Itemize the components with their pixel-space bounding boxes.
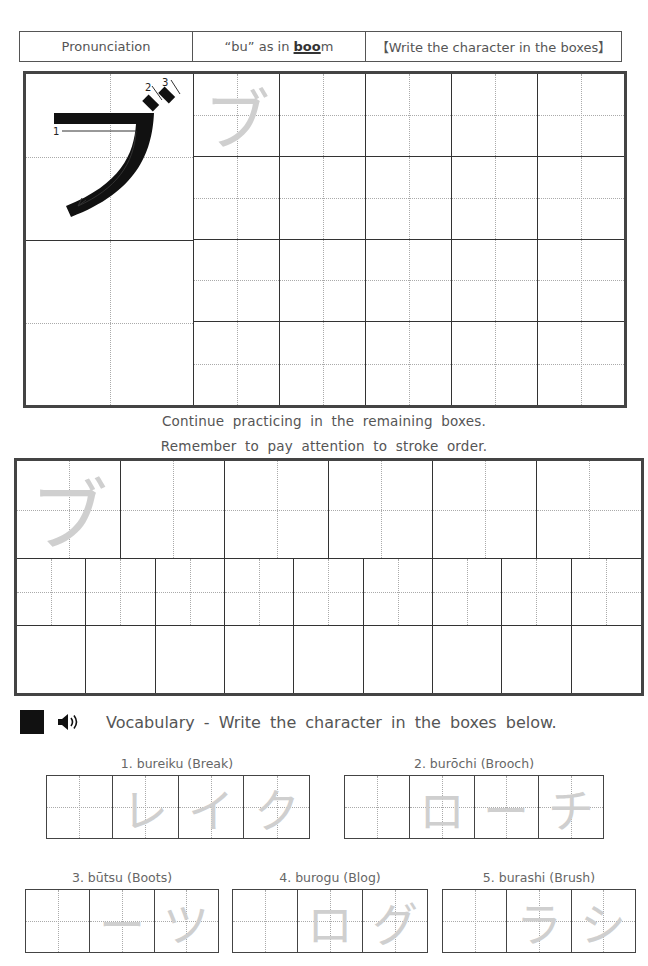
practice-cell[interactable]	[364, 626, 433, 693]
vocab-cell[interactable]: ク	[244, 776, 309, 838]
vocabulary-heading-text: Vocabulary - Write the character in the …	[106, 713, 557, 732]
practice-cell[interactable]: ブ	[194, 74, 280, 157]
trace-glyph: ロ	[298, 890, 362, 952]
practice-cell[interactable]	[17, 626, 86, 693]
practice-cell[interactable]	[502, 626, 571, 693]
practice-cell[interactable]	[366, 322, 452, 405]
instruction-line-1: Continue practicing in the remaining box…	[0, 413, 648, 429]
practice-cell[interactable]	[194, 157, 280, 240]
stroke-number-3: 3	[162, 77, 168, 88]
practice-cell[interactable]: ブ	[17, 461, 121, 559]
practice-cell[interactable]	[433, 559, 502, 626]
word-label-2: 2. burōchi (Brooch)	[344, 756, 604, 771]
practice-cell[interactable]	[194, 322, 280, 405]
vocab-cell[interactable]: ロ	[410, 776, 475, 838]
vocab-cell[interactable]	[47, 776, 113, 838]
vocab-cell[interactable]: ー	[90, 890, 154, 952]
vocab-cell[interactable]	[233, 890, 298, 952]
stroke-number-2: 2	[145, 82, 151, 93]
practice-cell[interactable]	[280, 240, 366, 323]
vocab-cell[interactable]	[345, 776, 410, 838]
trace-glyph: ー	[475, 776, 539, 838]
practice-cell[interactable]	[329, 461, 433, 559]
vocab-cell[interactable]: ロ	[298, 890, 363, 952]
vocab-cell[interactable]: レ	[113, 776, 179, 838]
practice-cell[interactable]	[225, 626, 294, 693]
vocab-cell[interactable]	[443, 890, 507, 952]
word-label-3: 3. būtsu (Boots)	[24, 870, 220, 885]
vocab-cell[interactable]: ー	[475, 776, 540, 838]
word-box-2: ローチ	[344, 775, 604, 839]
practice-cell[interactable]	[225, 461, 329, 559]
pronunciation-cell: Pronunciation	[20, 32, 193, 61]
practice-cell[interactable]	[225, 559, 294, 626]
trace-glyph: ブ	[194, 74, 279, 156]
word-box-5: ラシ	[442, 889, 636, 953]
word-label-5: 5. burashi (Brush)	[441, 870, 637, 885]
trace-glyph: チ	[539, 776, 603, 838]
practice-cell[interactable]	[280, 322, 366, 405]
trace-glyph: ロ	[410, 776, 474, 838]
practice-cell[interactable]	[433, 461, 537, 559]
pronunciation-label: Pronunciation	[62, 39, 151, 54]
practice-cells: ブ	[194, 74, 624, 405]
header-bar: Pronunciation “bu” as in boom 【Write the…	[19, 31, 622, 62]
vocab-cell[interactable]: ツ	[155, 890, 218, 952]
practice-cell[interactable]	[156, 626, 225, 693]
model-character-box: 1 2 3	[26, 74, 194, 241]
word-box-4: ログ	[232, 889, 428, 953]
practice-cell[interactable]	[502, 559, 571, 626]
practice-cell[interactable]	[452, 322, 538, 405]
practice-cell[interactable]	[121, 461, 225, 559]
practice-cell[interactable]	[452, 74, 538, 157]
word-label-1: 1. bureiku (Break)	[46, 756, 308, 771]
vocab-cell[interactable]: ラ	[507, 890, 571, 952]
trace-glyph: グ	[363, 890, 427, 952]
practice-cell[interactable]	[452, 157, 538, 240]
practice-cell[interactable]	[537, 461, 641, 559]
practice-cell[interactable]	[572, 626, 641, 693]
stroke-order-diagram: 1 2 3	[26, 74, 194, 241]
practice-cell[interactable]	[538, 322, 624, 405]
practice-cell[interactable]	[280, 74, 366, 157]
sound-highlight: boo	[294, 39, 321, 54]
vocab-cell[interactable]: イ	[179, 776, 245, 838]
vocab-cell[interactable]: シ	[572, 890, 635, 952]
practice-cell[interactable]	[156, 559, 225, 626]
speaker-icon[interactable]	[56, 712, 82, 732]
practice-cell[interactable]	[280, 157, 366, 240]
practice-cell[interactable]	[433, 626, 502, 693]
trace-glyph: ラ	[507, 890, 570, 952]
practice-cell[interactable]	[364, 559, 433, 626]
word-box-1: レイク	[46, 775, 310, 839]
practice-cell[interactable]	[86, 626, 155, 693]
sound-cell: “bu” as in boom	[193, 32, 366, 61]
vocab-cell[interactable]: チ	[539, 776, 603, 838]
word-label-4: 4. burogu (Blog)	[232, 870, 428, 885]
practice-cell[interactable]	[294, 559, 363, 626]
practice-cell[interactable]	[366, 74, 452, 157]
practice-cell[interactable]	[452, 240, 538, 323]
vocab-cell[interactable]: グ	[363, 890, 427, 952]
practice-cell[interactable]	[538, 74, 624, 157]
stroke-number-1: 1	[53, 126, 59, 137]
instruction-line-2: Remember to pay attention to stroke orde…	[0, 438, 648, 454]
practice-cell[interactable]	[572, 559, 641, 626]
practice-cell[interactable]	[17, 559, 86, 626]
trace-glyph: レ	[113, 776, 178, 838]
practice-cell[interactable]	[538, 157, 624, 240]
vocab-cell[interactable]	[26, 890, 90, 952]
trace-glyph: ク	[244, 776, 309, 838]
trace-glyph: イ	[179, 776, 244, 838]
trace-glyph: ー	[90, 890, 153, 952]
trace-glyph: ツ	[155, 890, 218, 952]
extra-practice-grid: ブ	[14, 458, 644, 696]
trace-glyph: シ	[572, 890, 635, 952]
practice-cell[interactable]	[194, 240, 280, 323]
practice-cell[interactable]	[294, 626, 363, 693]
practice-cell[interactable]	[538, 240, 624, 323]
blank-large-box[interactable]	[26, 241, 194, 405]
practice-cell[interactable]	[86, 559, 155, 626]
practice-cell[interactable]	[366, 157, 452, 240]
practice-cell[interactable]	[366, 240, 452, 323]
